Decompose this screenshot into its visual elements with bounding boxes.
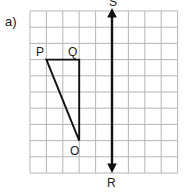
mirror-line-top-label-s: S xyxy=(109,0,117,8)
arrowhead-up-icon xyxy=(107,8,117,18)
part-label: a) xyxy=(5,15,17,28)
mirror-line-bottom-label-r: R xyxy=(107,177,116,189)
arrowhead-down-icon xyxy=(107,164,117,174)
geometry-figure: a) P Q O S R xyxy=(0,0,195,194)
line-of-symmetry xyxy=(107,8,117,173)
coordinate-grid xyxy=(30,11,178,173)
vertex-label-q: Q xyxy=(68,46,77,58)
vertex-label-p: P xyxy=(36,46,44,58)
figure-canvas xyxy=(0,0,195,194)
vertex-label-o: O xyxy=(70,145,79,157)
